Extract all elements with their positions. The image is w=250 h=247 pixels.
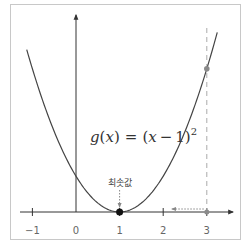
x-tick-label: 2 (160, 225, 166, 236)
axis-point-x3 (204, 210, 209, 215)
formula-const: 1 (175, 128, 185, 146)
x-tick-label: 0 (73, 225, 79, 236)
formula-fn-name: g (90, 128, 100, 146)
function-formula: g(x)=(x−1)2 (90, 126, 197, 146)
formula-expr-var: x (148, 128, 157, 146)
formula-exponent: 2 (191, 126, 197, 137)
chart-svg: −10123 최솟값 g(x)=(x−1)2 (0, 0, 250, 247)
formula-minus: − (160, 128, 173, 146)
minimum-label: 최솟값 (108, 177, 132, 188)
x-tick-label: −1 (25, 225, 40, 236)
x-tick-label: 3 (204, 225, 210, 236)
point-at-x3 (204, 66, 210, 72)
minimum-point (116, 209, 123, 216)
formula-paren-close: ) (114, 128, 120, 146)
x-tick-label: 1 (116, 225, 122, 236)
formula-equals: = (125, 128, 138, 146)
